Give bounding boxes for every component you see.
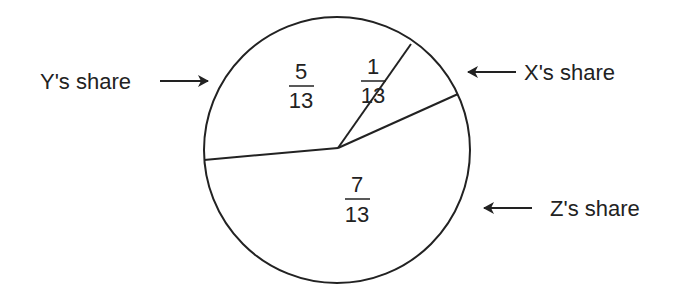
label-z-share: Z's share [550, 196, 640, 221]
label-y-share: Y's share [40, 69, 131, 94]
fraction-y-denominator: 13 [289, 88, 313, 113]
label-x-share: X's share [524, 60, 615, 85]
fraction-x-denominator: 13 [361, 83, 385, 108]
fraction-y-numerator: 5 [295, 59, 307, 84]
fraction-z-numerator: 7 [351, 172, 363, 197]
pie-circle [204, 17, 470, 283]
fraction-z-denominator: 13 [345, 202, 369, 227]
pie-diagram: 5 13 1 13 7 13 Y's share X's share Z's s… [0, 0, 697, 293]
fraction-x-numerator: 1 [367, 54, 379, 79]
